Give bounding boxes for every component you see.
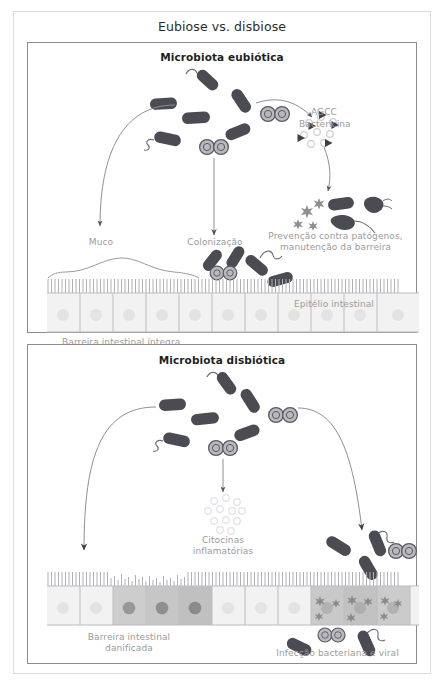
virus-star-icon <box>394 599 402 608</box>
arrow-icon <box>100 105 175 226</box>
scfa-circle-icon <box>327 131 334 138</box>
scfa-circle-icon <box>301 132 308 139</box>
cytokine-circle-icon <box>205 508 212 515</box>
invading-bacteria-group <box>324 529 416 582</box>
figure-root: Eubiose vs. disbiose Microbiota eubiótic… <box>0 0 444 685</box>
virus-star-icon <box>301 205 313 218</box>
label-bactericina: Bactericina <box>299 119 351 131</box>
nucleus-icon <box>57 309 404 321</box>
epithelial-cell-infected <box>377 586 410 625</box>
rod-bacterium-icon <box>201 247 224 273</box>
virus-star-icon <box>315 596 325 607</box>
panel-dysbiosis-title: Microbiota disbiótica <box>28 354 416 366</box>
arrow-icon <box>324 147 330 191</box>
rod-bacterium-icon <box>324 534 353 558</box>
epithelial-cell-damaged <box>179 586 212 625</box>
cytokine-group <box>205 495 246 535</box>
virus-star-icon <box>347 613 356 623</box>
mucus-layer-icon <box>48 258 199 278</box>
virus-star-icon <box>308 221 317 231</box>
cytokine-circle-icon <box>228 528 235 535</box>
epithelial-cell-row-damaged <box>47 586 419 625</box>
epithelial-cell-infected <box>344 586 377 625</box>
scfa-circle-icon <box>321 140 328 147</box>
nucleus-icon <box>57 602 399 615</box>
label-pathogen-prevention-1: Prevenção contra patógenos, <box>253 231 418 243</box>
virus-star-icon <box>314 198 325 210</box>
label-muco: Muco <box>73 237 129 249</box>
cytokine-circle-icon <box>211 498 218 505</box>
bacteriocin-triangle-icon <box>298 134 306 142</box>
flagellated-bacterium-icon <box>144 130 182 150</box>
arrow-icon <box>84 407 156 550</box>
flagellated-bacterium-icon <box>367 529 394 558</box>
virus-star-group <box>315 595 402 623</box>
label-citocinas-1: Citocinas <box>178 535 268 547</box>
microvilli-icon <box>48 572 108 586</box>
virus-star-icon <box>347 595 357 606</box>
rod-bacterium-icon <box>190 412 219 426</box>
microvilli-icon <box>188 572 398 586</box>
microbiota-cluster-dysbiotic <box>153 370 297 456</box>
cytokine-circle-icon <box>211 518 218 525</box>
label-agcc: AGCC <box>311 107 337 119</box>
cytokine-circle-icon <box>223 517 230 524</box>
virus-star-icon <box>364 597 373 607</box>
diplococcus-icon <box>261 107 290 122</box>
diplococcus-icon <box>209 441 238 456</box>
bacteriocin-triangle-icon <box>325 139 333 147</box>
scfa-circle-icon <box>308 141 315 148</box>
panel-eubiosis: Microbiota eubiótica <box>27 42 417 333</box>
diplococcus-icon <box>200 140 229 155</box>
panel-dysbiosis-graphics <box>28 345 418 663</box>
rod-bacterium-icon <box>357 554 380 582</box>
cytokine-circle-icon <box>217 506 224 513</box>
cytokine-circle-icon <box>223 495 230 502</box>
pathogen-prevention-group <box>293 196 392 233</box>
flagellated-bacterium-icon <box>243 251 282 278</box>
cytokine-circle-icon <box>239 508 246 515</box>
microbiota-cluster-eubiotic <box>144 68 289 155</box>
flagellated-bacterium-icon <box>153 431 191 451</box>
rod-bacterium-icon <box>266 271 294 289</box>
cytokine-circle-icon <box>229 508 236 515</box>
arrow-icon <box>256 100 312 117</box>
flagellated-bacterium-icon <box>207 370 238 397</box>
virus-star-icon <box>293 219 303 230</box>
epithelial-cell-infected <box>311 586 344 625</box>
rod-bacterium-icon <box>229 87 253 115</box>
virus-star-icon <box>381 596 390 606</box>
cytokine-circle-icon <box>234 499 241 506</box>
rod-bacterium-icon <box>327 196 354 211</box>
diplococcus-icon <box>389 544 417 559</box>
panel-eubiosis-title: Microbiota eubiótica <box>28 51 416 63</box>
diplococcus-icon <box>269 408 298 423</box>
label-citocinas-2: inflamatórias <box>178 546 268 558</box>
rod-bacterium-icon <box>238 387 262 415</box>
epithelial-cell-damaged <box>146 586 179 625</box>
label-epitelio-intestinal: Epitélio intestinal <box>294 299 374 311</box>
arrow-icon <box>298 408 362 530</box>
flagellated-bacterium-icon <box>186 68 221 93</box>
label-barreira-danificada-1: Barreira intestinal <box>61 632 197 644</box>
panel-dysbiosis: Microbiota disbiótica <box>27 344 417 664</box>
diplococcus-icon <box>318 628 345 642</box>
virus-star-icon <box>315 612 323 621</box>
rod-bacterium-icon <box>150 97 178 110</box>
label-infeccao: Infecção bacteriana e viral <box>260 648 415 660</box>
label-colonizacao: Colonização <box>176 237 254 249</box>
label-pathogen-prevention-2: manutenção da barreira <box>253 242 418 254</box>
rod-bacterium-icon <box>159 398 187 411</box>
cytokine-circle-icon <box>234 518 241 525</box>
dead-bacterium-icon <box>364 197 392 213</box>
rod-bacterium-icon <box>224 122 252 142</box>
diplococcus-icon <box>210 266 237 280</box>
rod-bacterium-icon <box>233 423 261 443</box>
microvilli-icon <box>48 279 398 293</box>
page-title: Eubiose vs. disbiose <box>0 19 444 34</box>
epithelium-damaged <box>47 572 419 625</box>
virus-star-icon <box>332 599 340 608</box>
virus-star-icon <box>380 612 388 621</box>
label-barreira-danificada-2: danificada <box>61 643 197 655</box>
rod-bacterium-icon <box>182 111 211 124</box>
